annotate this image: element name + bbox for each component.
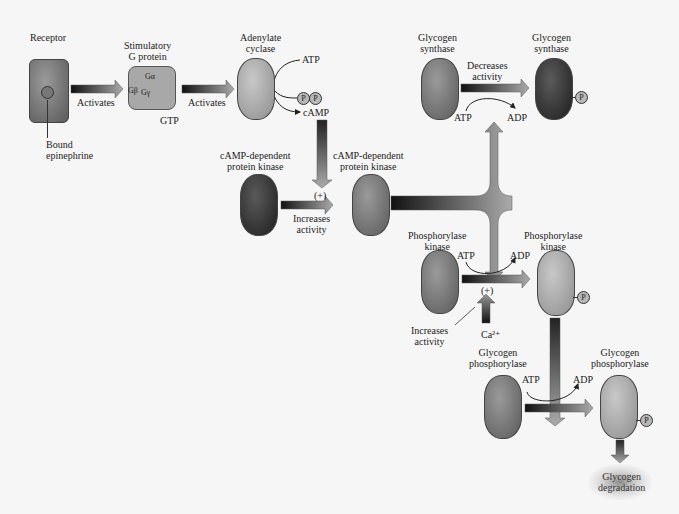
- atp-label-phk: ATP: [457, 250, 475, 261]
- gp-active: [600, 375, 638, 439]
- decreases-activity-label: Decreasesactivity: [467, 60, 508, 82]
- phk-inactive: [421, 250, 459, 314]
- gs-inactive: [421, 58, 459, 120]
- atp-label-gp: ATP: [522, 374, 540, 385]
- g-protein-label: StimulatoryG protein: [124, 40, 171, 62]
- g-alpha-label: Gα: [145, 71, 155, 82]
- glycogen-degradation-label: Glycogendegradation: [598, 471, 645, 493]
- receptor-label: Receptor: [30, 32, 66, 43]
- gs-inactive-label: Glycogensynthase: [418, 32, 457, 54]
- gs-phospho-label: Glycogensynthase: [532, 32, 571, 54]
- adp-label-gs: ADP: [507, 112, 527, 123]
- phk-active-label: Phosphorylasekinase: [524, 230, 582, 252]
- gs-phospho: [535, 58, 573, 120]
- epinephrine-pointer: [47, 100, 48, 138]
- increases-activity-label-2: Increasesactivity: [411, 325, 448, 347]
- gp-active-label: Glycogenphosphorylase: [591, 347, 649, 369]
- camp-label: cAMP: [303, 107, 329, 118]
- pka-active-label: cAMP-dependentprotein kinase: [333, 150, 404, 172]
- epinephrine-icon: [41, 86, 54, 99]
- adp-label-gp: ADP: [573, 374, 593, 385]
- g-gamma-label: Gγ: [141, 87, 150, 98]
- gtp-label: GTP: [160, 115, 179, 126]
- pka-active: [352, 174, 390, 236]
- activates-label-1: Activates: [77, 97, 115, 108]
- bound-epinephrine-label: Boundepinephrine: [46, 139, 93, 161]
- g-beta-label: Gβ: [128, 85, 138, 96]
- increases-activity-label-1: Increasesactivity: [293, 213, 330, 235]
- pka-inactive-label: cAMP-dependentprotein kinase: [220, 150, 291, 172]
- atp-label-1: ATP: [302, 54, 320, 65]
- plus-label-1: (+): [314, 190, 326, 201]
- activates-label-2: Activates: [188, 97, 226, 108]
- atp-label-gs: ATP: [454, 112, 472, 123]
- phk-active: [537, 250, 575, 316]
- gp-inactive-label: Glycogenphosphorylase: [469, 347, 527, 369]
- adenylate-cyclase-label: Adenylatecyclase: [240, 32, 281, 54]
- phosphate-icon-2: P: [309, 92, 322, 105]
- adenylate-cyclase: [237, 58, 275, 120]
- phosphate-icon-phk: P: [577, 291, 590, 304]
- calcium-label: Ca²⁺: [481, 329, 500, 340]
- phosphate-icon-gs: P: [575, 91, 588, 104]
- phosphate-icon-gp: P: [640, 414, 653, 427]
- phk-inactive-label: Phosphorylasekinase: [408, 230, 466, 252]
- pka-inactive: [240, 174, 278, 236]
- pathway-arrows: [0, 0, 679, 514]
- plus-label-2: (+): [481, 285, 493, 296]
- gp-inactive: [484, 375, 522, 439]
